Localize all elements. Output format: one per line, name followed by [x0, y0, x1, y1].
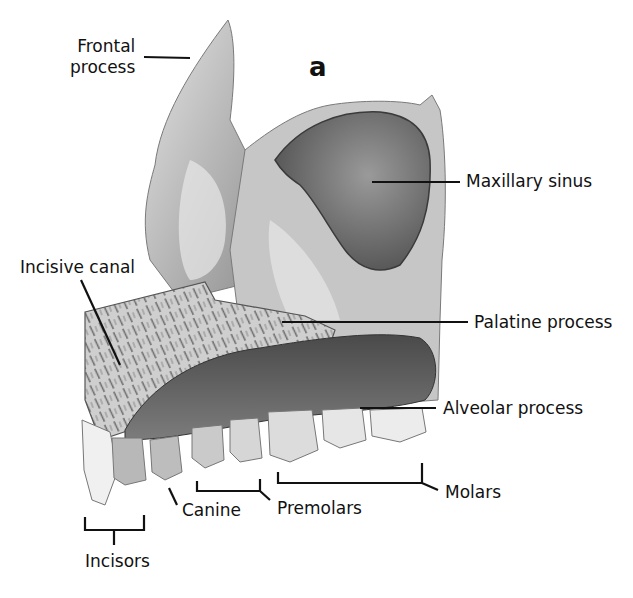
molars-bracket: [278, 463, 438, 490]
label-maxillary-sinus: Maxillary sinus: [466, 171, 592, 192]
premolar-tooth-1: [192, 425, 224, 468]
label-frontal-process-line2: process: [70, 57, 135, 78]
label-molars: Molars: [445, 482, 501, 503]
molar-tooth-2: [322, 408, 366, 448]
incisors-bracket: [85, 515, 144, 545]
incisor-tooth-2: [112, 438, 146, 485]
maxilla-diagram: a Frontal process Maxillary sinus Incisi…: [0, 0, 633, 598]
premolar-tooth-2: [230, 418, 262, 462]
label-frontal-process-line1: Frontal: [70, 36, 135, 57]
label-frontal-process: Frontal process: [70, 36, 135, 78]
molar-tooth-3: [370, 408, 426, 442]
panel-letter: a: [309, 52, 327, 82]
label-alveolar-process: Alveolar process: [443, 398, 583, 419]
label-incisors: Incisors: [85, 551, 150, 572]
label-canine: Canine: [182, 500, 241, 521]
canine-tooth: [150, 436, 182, 480]
label-premolars: Premolars: [277, 498, 362, 519]
leader-frontal-process: [144, 57, 190, 58]
label-palatine-process: Palatine process: [474, 312, 612, 333]
molar-tooth-1: [268, 410, 318, 462]
premolars-bracket: [197, 479, 270, 500]
leader-canine: [169, 488, 177, 505]
label-incisive-canal: Incisive canal: [20, 257, 135, 278]
